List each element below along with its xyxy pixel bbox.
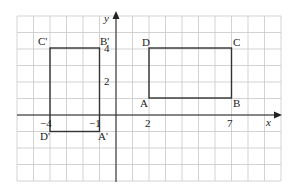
vertex-c-prime: C' — [38, 35, 47, 47]
coordinate-diagram: y x 4 2 −4 −1 2 7 A B C D A' B' C' D' — [0, 0, 295, 195]
tick-x-7: 7 — [227, 117, 233, 129]
y-axis-label: y — [103, 12, 109, 24]
tick-x-neg1: −1 — [89, 117, 101, 129]
tick-y-2: 2 — [104, 75, 110, 87]
vertex-c: C — [233, 36, 240, 48]
y-axis-arrow-icon — [113, 11, 120, 19]
vertex-a-prime: A' — [98, 130, 108, 142]
tick-x-neg4: −4 — [40, 117, 52, 129]
vertex-d: D — [142, 36, 150, 48]
x-axis-label: x — [265, 116, 271, 128]
rectangle-abcd — [149, 48, 232, 98]
vertex-a: A — [140, 97, 148, 109]
tick-x-2: 2 — [145, 117, 151, 129]
vertex-b: B — [233, 97, 240, 109]
vertex-d-prime: D' — [40, 130, 50, 142]
vertex-b-prime: B' — [100, 35, 109, 47]
